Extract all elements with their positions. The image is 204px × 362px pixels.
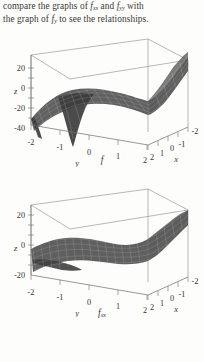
figure-caption-f: f xyxy=(0,155,204,165)
caption-subscript: xx xyxy=(101,312,106,318)
caption-symbol: f xyxy=(101,155,104,165)
z-tick-label: 0 xyxy=(21,241,25,250)
z-tick-label: -20 xyxy=(14,271,25,280)
y-tick-label: -1 xyxy=(57,293,64,302)
body-text-line-2: the graph of fy to see the relationships… xyxy=(3,14,201,27)
x-tick-label: -2 xyxy=(192,277,199,286)
z-tick-label: 20 xyxy=(17,64,25,73)
z-tick-label: -20 xyxy=(14,104,25,113)
x-tick-label: -2 xyxy=(192,127,199,136)
text-fragment: compare the graphs of xyxy=(3,1,90,11)
z-tick-label: 0 xyxy=(21,84,25,93)
z-axis-label: z xyxy=(13,244,18,253)
body-text: compare the graphs of fxx and fyy with t… xyxy=(0,0,204,27)
surface-plot-fxx: 20 0 -20 z -2 -1 0 1 2 y xyxy=(0,177,204,317)
x-tick-label: -1 xyxy=(179,140,186,149)
y-tick-label: 0 xyxy=(87,298,91,307)
text-fragment: with xyxy=(125,1,144,11)
y-axis-ticks xyxy=(31,275,147,300)
z-tick-label: 20 xyxy=(17,211,25,220)
y-axis-ticks xyxy=(31,125,147,150)
body-text-line-1: compare the graphs of fxx and fyy with xyxy=(3,1,201,14)
text-fragment: the graph of xyxy=(3,14,51,24)
x-tick-label: -1 xyxy=(179,290,186,299)
text-fragment: and xyxy=(98,1,117,11)
figure-fxx: 20 0 -20 z -2 -1 0 1 2 y xyxy=(0,177,204,325)
surface-plot-f: 20 0 -20 -40 z -2 -1 0 1 2 y xyxy=(0,27,204,167)
z-tick-label: -40 xyxy=(14,124,25,133)
y-tick-label: -2 xyxy=(28,138,35,147)
z-axis-label: z xyxy=(13,87,18,96)
text-fragment: to see the relationships. xyxy=(57,14,149,24)
figure-f: 20 0 -20 -40 z -2 -1 0 1 2 y xyxy=(0,27,204,177)
x-tick-label: 0 xyxy=(170,144,174,153)
y-tick-label: -2 xyxy=(28,288,35,297)
figure-caption-fxx: fxx xyxy=(0,308,204,318)
surface-mesh xyxy=(31,52,188,147)
x-tick-label: 0 xyxy=(170,294,174,303)
y-tick-label: -1 xyxy=(57,143,64,152)
x-tick-label: 1 xyxy=(160,299,164,308)
